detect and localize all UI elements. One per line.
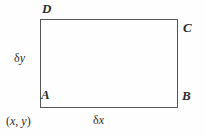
paren-close: ) (27, 114, 31, 128)
vertex-label-b: B (182, 89, 191, 102)
vertex-label-d: D (42, 2, 52, 15)
delta-y-label: δy (14, 52, 25, 64)
delta-x-label: δx (93, 114, 104, 126)
delta-y-variable: y (20, 51, 25, 65)
rectangle-element-diagram: D C A B δy δx (x, y) (0, 0, 206, 136)
vertex-label-c: C (183, 21, 192, 34)
delta-x-variable: x (99, 113, 104, 127)
vertex-label-a: A (41, 88, 50, 101)
origin-coordinate-label: (x, y) (6, 115, 31, 127)
rectangle-shape (40, 19, 178, 108)
